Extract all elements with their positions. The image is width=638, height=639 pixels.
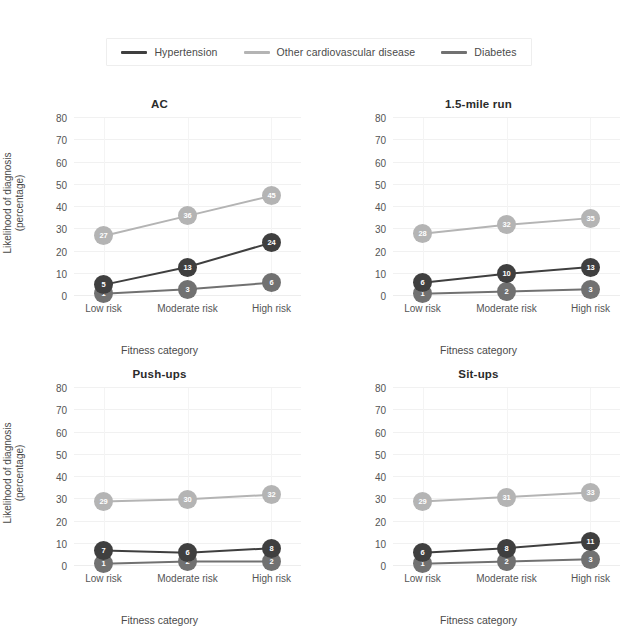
y-axis-tick-label: 80 <box>375 383 386 394</box>
y-axis-tick-label: 20 <box>375 246 386 257</box>
y-axis-tick-label: 20 <box>56 516 67 527</box>
y-axis-tick-label: 70 <box>375 405 386 416</box>
data-point-marker[interactable]: 3 <box>581 550 600 569</box>
data-point-marker[interactable]: 29 <box>413 492 432 511</box>
data-point-marker[interactable]: 7 <box>94 541 113 560</box>
y-axis-title-line2: (percentage) <box>14 118 26 288</box>
data-point-marker[interactable]: 33 <box>581 483 600 502</box>
y-axis-tick-label: 0 <box>61 561 67 572</box>
legend-item[interactable]: Other cardiovascular disease <box>244 46 416 58</box>
x-axis-tick-label: High risk <box>252 303 291 314</box>
x-axis-tick-label: Low risk <box>85 303 122 314</box>
x-axis-title: Fitness category <box>0 344 319 356</box>
legend-label: Hypertension <box>154 46 217 58</box>
y-axis-tick-label: 60 <box>56 157 67 168</box>
y-axis-tick-label: 40 <box>56 202 67 213</box>
plot-area: 01020304050607080Low riskModerate riskHi… <box>393 118 620 296</box>
y-axis-title: Likelihood of diagnosis(percentage) <box>2 388 20 558</box>
data-point-marker[interactable]: 2 <box>497 282 516 301</box>
y-axis-tick-label: 40 <box>375 472 386 483</box>
y-axis-title-line1: Likelihood of diagnosis <box>2 388 14 558</box>
y-axis-title-line2: (percentage) <box>14 388 26 558</box>
chart-panel: Push-upsLikelihood of diagnosis(percenta… <box>0 362 319 632</box>
data-point-marker[interactable]: 29 <box>94 492 113 511</box>
data-point-marker[interactable]: 11 <box>581 532 600 551</box>
y-axis-tick-label: 50 <box>375 179 386 190</box>
data-point-marker[interactable]: 24 <box>262 233 281 252</box>
y-axis-tick-label: 30 <box>375 494 386 505</box>
x-axis-tick-label: Moderate risk <box>157 573 218 584</box>
x-axis-tick-label: Moderate risk <box>157 303 218 314</box>
panel-title: Push-ups <box>0 368 319 380</box>
data-point-marker[interactable]: 31 <box>497 488 516 507</box>
y-axis-tick-label: 80 <box>56 383 67 394</box>
data-point-marker[interactable]: 6 <box>262 273 281 292</box>
panel-title: 1.5-mile run <box>319 98 638 110</box>
y-axis-tick-label: 60 <box>375 157 386 168</box>
y-axis-tick-label: 80 <box>375 113 386 124</box>
data-point-marker[interactable]: 8 <box>497 539 516 558</box>
data-point-marker[interactable]: 35 <box>581 209 600 228</box>
legend-label: Other cardiovascular disease <box>277 46 416 58</box>
plot-area: 01020304050607080Low riskModerate riskHi… <box>74 118 301 296</box>
y-axis-tick-label: 20 <box>375 516 386 527</box>
line-swatch-icon <box>121 51 147 54</box>
chart-legend: HypertensionOther cardiovascular disease… <box>0 38 638 66</box>
y-axis-tick-label: 0 <box>61 291 67 302</box>
y-axis-tick-label: 50 <box>56 179 67 190</box>
chart-panel: ACLikelihood of diagnosis(percentage)010… <box>0 92 319 362</box>
x-axis-tick-label: Low risk <box>404 573 441 584</box>
y-axis-tick-label: 30 <box>56 224 67 235</box>
y-axis-tick-label: 50 <box>56 449 67 460</box>
y-axis-tick-label: 30 <box>375 224 386 235</box>
x-axis-title: Fitness category <box>319 614 638 626</box>
x-axis-tick-label: Moderate risk <box>476 573 537 584</box>
y-axis-tick-label: 10 <box>375 268 386 279</box>
data-point-marker[interactable]: 13 <box>178 258 197 277</box>
x-axis-tick-label: High risk <box>252 573 291 584</box>
y-axis-title-line1: Likelihood of diagnosis <box>2 118 14 288</box>
plot-area: 01020304050607080Low riskModerate riskHi… <box>393 388 620 566</box>
data-point-marker[interactable]: 8 <box>262 539 281 558</box>
y-axis-tick-label: 40 <box>56 472 67 483</box>
x-axis-title: Fitness category <box>319 344 638 356</box>
y-axis-tick-label: 60 <box>56 427 67 438</box>
y-axis-tick-label: 60 <box>375 427 386 438</box>
x-axis-tick-label: Moderate risk <box>476 303 537 314</box>
y-axis-tick-label: 40 <box>375 202 386 213</box>
y-axis-tick-label: 0 <box>380 291 386 302</box>
chart-panel: Sit-ups01020304050607080Low riskModerate… <box>319 362 638 632</box>
y-axis-tick-label: 10 <box>56 538 67 549</box>
y-axis-title: Likelihood of diagnosis(percentage) <box>2 118 20 288</box>
y-axis-tick-label: 50 <box>375 449 386 460</box>
data-point-marker[interactable]: 3 <box>178 280 197 299</box>
line-swatch-icon <box>441 51 467 54</box>
y-axis-tick-label: 10 <box>375 538 386 549</box>
chart-panel-grid: ACLikelihood of diagnosis(percentage)010… <box>0 92 638 632</box>
y-axis-tick-label: 20 <box>56 246 67 257</box>
x-axis-tick-label: High risk <box>571 573 610 584</box>
chart-panel: 1.5-mile run01020304050607080Low riskMod… <box>319 92 638 362</box>
data-point-marker[interactable]: 13 <box>581 258 600 277</box>
line-swatch-icon <box>244 51 270 54</box>
legend-item[interactable]: Hypertension <box>121 46 217 58</box>
panel-title: AC <box>0 98 319 110</box>
legend-label: Diabetes <box>474 46 516 58</box>
x-axis-tick-label: Low risk <box>404 303 441 314</box>
data-point-marker[interactable]: 3 <box>581 280 600 299</box>
y-axis-tick-label: 10 <box>56 268 67 279</box>
x-axis-title: Fitness category <box>0 614 319 626</box>
y-axis-tick-label: 80 <box>56 113 67 124</box>
legend-item[interactable]: Diabetes <box>441 46 516 58</box>
y-axis-tick-label: 0 <box>380 561 386 572</box>
panel-title: Sit-ups <box>319 368 638 380</box>
y-axis-tick-label: 30 <box>56 494 67 505</box>
plot-area: 01020304050607080Low riskModerate riskHi… <box>74 388 301 566</box>
x-axis-tick-label: Low risk <box>85 573 122 584</box>
y-axis-tick-label: 70 <box>56 135 67 146</box>
data-point-marker[interactable]: 30 <box>178 490 197 509</box>
legend-box: HypertensionOther cardiovascular disease… <box>106 38 531 66</box>
y-axis-tick-label: 70 <box>375 135 386 146</box>
y-axis-tick-label: 70 <box>56 405 67 416</box>
x-axis-tick-label: High risk <box>571 303 610 314</box>
